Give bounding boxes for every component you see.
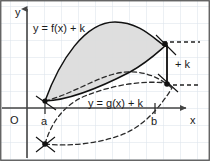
graph-canvas: y = f(x) + k y = g(x) + k + k O x y a b [0, 0, 210, 161]
graph-figure: y = f(x) + k y = g(x) + k + k O x y a b [0, 0, 210, 161]
label-upper-curve: y = f(x) + k [33, 22, 85, 34]
label-lower-curve: y = g(x) + k [88, 97, 144, 109]
label-origin: O [10, 114, 19, 126]
point-b-lower [164, 81, 170, 87]
point-a [42, 98, 47, 103]
label-x-axis: x [190, 114, 196, 126]
point-f-minimum [42, 141, 48, 147]
label-shift-k: + k [175, 58, 190, 70]
label-tick-b: b [151, 115, 157, 127]
point-b-upper [162, 41, 168, 47]
label-y-axis: y [15, 6, 21, 18]
label-tick-a: a [41, 115, 48, 127]
